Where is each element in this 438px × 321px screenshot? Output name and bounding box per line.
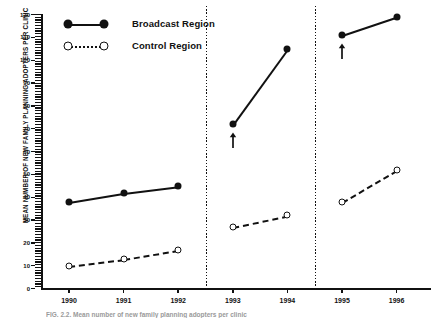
x-tick-label: 1990 xyxy=(61,297,77,304)
x-tick-mark xyxy=(287,288,289,293)
intervention-arrow-up-icon xyxy=(228,132,238,148)
x-tick-mark xyxy=(123,288,125,293)
legend-symbol-filled-circle-solid-line xyxy=(60,14,120,36)
x-axis-ticks xyxy=(0,288,438,295)
figure-caption: FIG. 2.2. Mean number of new family plan… xyxy=(46,311,436,318)
data-point-broadcast xyxy=(120,189,127,196)
y-tick-label: 110 xyxy=(12,34,30,40)
y-tick-label: 30 xyxy=(12,217,30,223)
data-point-broadcast xyxy=(66,198,73,205)
legend-symbol-open-circle-dotted-line xyxy=(60,36,120,58)
x-tick-mark xyxy=(68,288,70,293)
data-point-broadcast xyxy=(229,121,236,128)
x-tick-label: 1994 xyxy=(280,297,296,304)
data-point-control xyxy=(393,166,400,173)
data-point-broadcast xyxy=(284,45,291,52)
x-tick-label: 1996 xyxy=(389,297,405,304)
data-point-control xyxy=(120,255,127,262)
series-line-control xyxy=(342,170,398,204)
legend-label-control: Control Region xyxy=(132,40,202,51)
figure-panel: MEAN NUMBER OF NEW FAMILY PLANNING ADOPT… xyxy=(0,0,438,321)
x-tick-mark xyxy=(396,288,398,293)
y-tick-label: 80 xyxy=(12,103,30,109)
x-tick-label: 1991 xyxy=(116,297,132,304)
data-point-control xyxy=(229,223,236,230)
data-point-control xyxy=(66,262,73,269)
period-divider xyxy=(206,6,207,289)
data-point-broadcast xyxy=(339,32,346,39)
series-line-broadcast xyxy=(69,193,124,204)
y-tick-label: 50 xyxy=(12,171,30,177)
x-tick-label: 1993 xyxy=(225,297,241,304)
intervention-arrow-up-icon xyxy=(337,43,347,59)
period-divider xyxy=(315,6,316,289)
series-line-control xyxy=(124,250,179,261)
x-tick-mark xyxy=(341,288,343,293)
data-point-control xyxy=(339,198,346,205)
x-tick-mark xyxy=(232,288,234,293)
y-tick-label: 70 xyxy=(12,126,30,132)
y-axis-tick-labels: 0102030405060708090100110120 xyxy=(10,0,30,321)
x-tick-label: 1995 xyxy=(334,297,350,304)
y-tick-label: 20 xyxy=(12,240,30,246)
series-line-broadcast xyxy=(342,17,397,37)
y-tick-label: 60 xyxy=(12,149,30,155)
y-tick-label: 100 xyxy=(12,57,30,63)
data-point-control xyxy=(175,246,182,253)
series-line-broadcast xyxy=(124,186,179,195)
data-point-control xyxy=(284,212,291,219)
legend-label-broadcast: Broadcast Region xyxy=(132,18,215,29)
data-point-broadcast xyxy=(175,182,182,189)
series-line-control xyxy=(233,215,288,228)
x-tick-mark xyxy=(177,288,179,293)
y-axis-line xyxy=(41,14,43,289)
y-tick-label: 10 xyxy=(12,263,30,269)
y-tick-label: 90 xyxy=(12,80,30,86)
series-line-control xyxy=(69,259,124,268)
y-tick-label: 120 xyxy=(12,12,30,18)
y-tick-label: 40 xyxy=(12,194,30,200)
x-tick-label: 1992 xyxy=(170,297,186,304)
series-line-broadcast xyxy=(233,49,289,126)
data-point-broadcast xyxy=(393,13,400,20)
